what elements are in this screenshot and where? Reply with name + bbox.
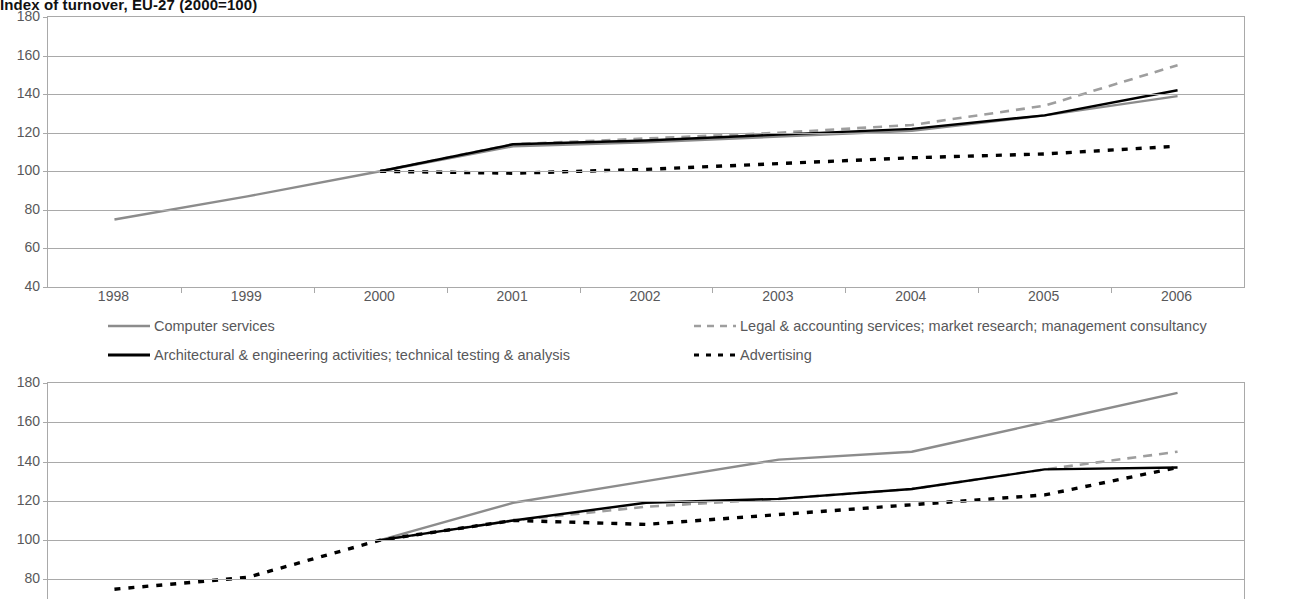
y-axis-labels-bottom: 80100120140160180 xyxy=(0,382,40,599)
y-axis-tick-label: 180 xyxy=(17,374,40,390)
y-axis-tick-label: 80 xyxy=(24,201,40,217)
y-axis-tick xyxy=(43,540,48,541)
y-axis-tick xyxy=(43,422,48,423)
y-axis-tick-label: 100 xyxy=(17,531,40,547)
chart-page: Index of turnover, EU-27 (2000=100) 4060… xyxy=(0,0,1303,599)
series-line xyxy=(380,467,1177,540)
legend-label-architectural-engineering: Architectural & engineering activities; … xyxy=(154,347,570,363)
x-axis-tick-label: 1998 xyxy=(98,288,129,304)
y-axis-tick-label: 180 xyxy=(17,8,40,24)
gridline xyxy=(48,133,1244,134)
y-axis-tick xyxy=(43,501,48,502)
x-axis-tick-label: 2005 xyxy=(1028,288,1059,304)
series-line xyxy=(380,65,1177,171)
legend-item-architectural-engineering: Architectural & engineering activities; … xyxy=(108,347,570,363)
y-axis-tick-label: 140 xyxy=(17,85,40,101)
y-axis-tick-label: 160 xyxy=(17,413,40,429)
gridline xyxy=(48,94,1244,95)
legend-item-computer-services: Computer services xyxy=(108,318,275,334)
y-axis-tick-label: 120 xyxy=(17,492,40,508)
y-axis-tick-label: 60 xyxy=(24,239,40,255)
series-line xyxy=(380,90,1177,171)
gridline xyxy=(48,422,1244,423)
series-line xyxy=(114,96,1177,219)
y-axis-tick-label: 100 xyxy=(17,162,40,178)
series-line xyxy=(380,452,1177,540)
series-layer-top xyxy=(48,17,1244,287)
chart-panel-bottom: 80100120140160180 xyxy=(0,382,1303,599)
legend-label-computer-services: Computer services xyxy=(154,318,275,334)
y-axis-tick xyxy=(43,133,48,134)
gridline xyxy=(48,248,1244,249)
series-line xyxy=(380,146,1177,173)
legend-swatch-dotted-black-icon xyxy=(694,349,736,361)
series-line xyxy=(114,467,1177,589)
series-line xyxy=(380,393,1177,540)
y-axis-tick xyxy=(43,462,48,463)
gridline xyxy=(48,579,1244,580)
x-axis-tick-label: 1999 xyxy=(231,288,262,304)
x-axis-tick-label: 2002 xyxy=(629,288,660,304)
plot-area-top xyxy=(47,16,1245,288)
y-axis-tick xyxy=(43,56,48,57)
gridline xyxy=(48,540,1244,541)
y-axis-tick-label: 120 xyxy=(17,124,40,140)
gridline xyxy=(48,210,1244,211)
x-axis-labels-top: 199819992000200120022003200420052006 xyxy=(47,288,1245,312)
series-layer-bottom xyxy=(48,383,1244,599)
legend-swatch-solid-black-icon xyxy=(108,349,150,361)
x-axis-tick-label: 2001 xyxy=(497,288,528,304)
y-axis-tick xyxy=(43,17,48,18)
legend-label-legal-accounting: Legal & accounting services; market rese… xyxy=(740,318,1207,334)
legend-swatch-dashed-gray-icon xyxy=(694,320,736,332)
y-axis-tick-label: 40 xyxy=(24,278,40,294)
plot-area-bottom xyxy=(47,382,1245,599)
gridline xyxy=(48,171,1244,172)
y-axis-tick xyxy=(43,248,48,249)
y-axis-tick xyxy=(43,579,48,580)
legend-item-legal-accounting: Legal & accounting services; market rese… xyxy=(694,318,1207,334)
legend-swatch-solid-gray-icon xyxy=(108,320,150,332)
y-axis-tick-label: 140 xyxy=(17,453,40,469)
x-axis-tick-label: 2003 xyxy=(762,288,793,304)
gridline xyxy=(48,462,1244,463)
y-axis-tick-label: 80 xyxy=(24,570,40,586)
y-axis-labels-top: 406080100120140160180 xyxy=(0,16,40,288)
y-axis-tick xyxy=(43,383,48,384)
x-axis-tick-label: 2006 xyxy=(1161,288,1192,304)
y-axis-tick xyxy=(43,171,48,172)
x-axis-tick-label: 2000 xyxy=(364,288,395,304)
legend-item-advertising: Advertising xyxy=(694,347,812,363)
y-axis-tick xyxy=(43,94,48,95)
y-axis-tick-label: 160 xyxy=(17,47,40,63)
y-axis-tick xyxy=(43,210,48,211)
x-axis-tick-label: 2004 xyxy=(895,288,926,304)
chart-legend: Computer services Legal & accounting ser… xyxy=(0,318,1303,374)
legend-label-advertising: Advertising xyxy=(740,347,812,363)
gridline xyxy=(48,56,1244,57)
chart-panel-top: 406080100120140160180 xyxy=(0,16,1303,288)
gridline xyxy=(48,501,1244,502)
